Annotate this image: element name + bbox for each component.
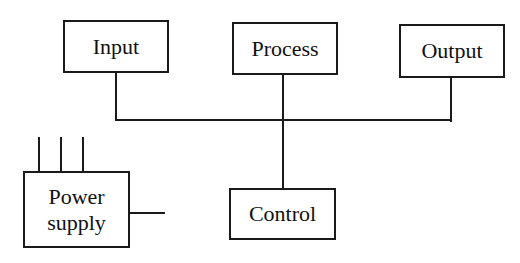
- input-connector: [115, 71, 117, 121]
- control-label: Control: [249, 201, 316, 226]
- power-label-line2: supply: [47, 210, 106, 235]
- process-connector: [282, 73, 284, 189]
- process-block: Process: [232, 22, 338, 75]
- power-pin-3: [82, 137, 84, 172]
- input-block: Input: [63, 20, 169, 73]
- input-label: Input: [93, 34, 139, 59]
- output-block: Output: [399, 24, 505, 78]
- control-block: Control: [229, 188, 336, 240]
- power-label-line1: Power: [48, 184, 104, 209]
- power-pin-2: [60, 137, 62, 172]
- bus-line: [115, 119, 452, 121]
- output-label: Output: [421, 38, 482, 63]
- power-output-lead: [128, 212, 165, 214]
- output-connector: [450, 76, 452, 122]
- power-pin-1: [38, 137, 40, 172]
- process-label: Process: [251, 36, 318, 61]
- power-supply-block: Power supply: [23, 171, 130, 248]
